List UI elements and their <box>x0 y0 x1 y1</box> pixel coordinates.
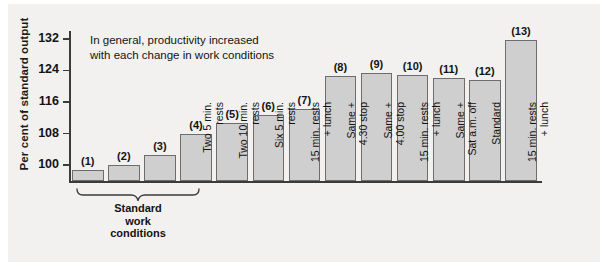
x-tick-label: Same + 4.30 stop <box>346 102 369 188</box>
x-tick-label: Two 5 min. rests <box>202 102 225 188</box>
chart-figure: Per cent of standard output 100108116124… <box>0 0 612 276</box>
x-tick-label: 15 min. rests + lunch <box>527 102 550 188</box>
y-tick-label: 100 <box>19 157 59 171</box>
bar-value-label: (13) <box>499 25 543 37</box>
y-tick-label: 116 <box>19 94 59 108</box>
x-tick-label: 15 min. rests + lunch <box>310 102 333 188</box>
x-tick-label: 15 min. rests + lunch <box>419 102 442 188</box>
chart-annotation: In general, productivity increased with … <box>90 33 274 63</box>
y-tick-mark <box>63 101 70 103</box>
y-tick-mark <box>63 133 70 135</box>
x-tick-label: Standard <box>491 102 503 188</box>
x-tick-label: Six 5 min. rests <box>274 102 297 188</box>
x-tick-label: Same + 4.00 stop <box>383 102 406 188</box>
x-tick-label: Two 10 min. rests <box>238 102 261 188</box>
y-tick-label: 108 <box>19 126 59 140</box>
bar-value-label: (3) <box>138 140 182 152</box>
bar <box>144 155 176 181</box>
bar-value-label: (12) <box>463 65 507 77</box>
bar <box>108 165 140 181</box>
y-tick-label: 124 <box>19 62 59 76</box>
y-tick-label: 132 <box>19 31 59 45</box>
x-tick-label: Same + Sat a.m. off <box>455 102 478 188</box>
bar <box>72 170 104 181</box>
y-tick-mark <box>63 70 70 72</box>
y-tick-mark <box>63 38 70 40</box>
group-bracket-icon <box>76 188 200 202</box>
group-bracket-label: Standard work conditions <box>76 202 200 240</box>
